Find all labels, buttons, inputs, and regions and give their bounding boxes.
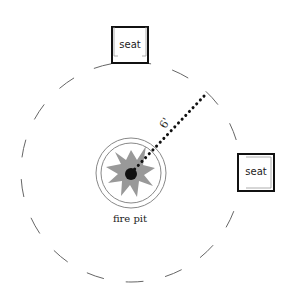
seat-top-label: seat: [119, 39, 140, 50]
seat-right: seat: [238, 154, 274, 191]
distance-line: [131, 94, 206, 173]
seat-right-label: seat: [245, 166, 266, 177]
fire-pit-layout-diagram: seat seat 6' fire pit: [0, 0, 293, 300]
distance-label: 6': [157, 116, 173, 131]
fire-pit-label: fire pit: [113, 213, 147, 224]
seat-top: seat: [112, 27, 148, 63]
fire-pit-center: [125, 168, 137, 180]
